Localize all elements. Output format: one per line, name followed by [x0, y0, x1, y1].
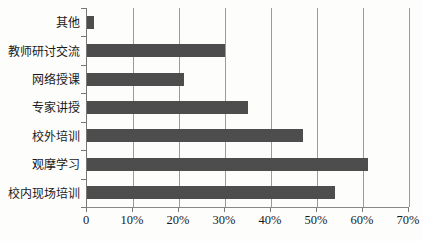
- x-tick-label: 10%: [121, 213, 144, 228]
- y-axis-tick: [81, 179, 86, 180]
- y-axis-tick: [81, 36, 86, 37]
- category-label: 教师研讨交流: [0, 36, 80, 64]
- y-axis-tick: [81, 122, 86, 123]
- x-axis-tick: [178, 208, 179, 212]
- x-axis-tick: [224, 208, 225, 212]
- bar-校内现场培训: [87, 186, 335, 199]
- x-tick-label: 30%: [213, 213, 236, 228]
- category-label: 校外培训: [0, 122, 80, 150]
- x-tick-label: 20%: [167, 213, 190, 228]
- x-axis-tick: [270, 208, 271, 212]
- bar-row: [87, 122, 409, 150]
- gridline: [409, 8, 410, 207]
- category-label: 专家讲授: [0, 93, 80, 121]
- x-tick-label: 40%: [259, 213, 282, 228]
- bar-chart: 其他教师研讨交流网络授课专家讲授校外培训观摩学习校内现场培训 010%20%30…: [0, 0, 422, 241]
- x-axis-tick: [86, 208, 87, 212]
- bar-其他: [87, 16, 94, 29]
- category-axis-labels: 其他教师研讨交流网络授课专家讲授校外培训观摩学习校内现场培训: [0, 8, 80, 207]
- x-axis-tick: [132, 208, 133, 212]
- bar-专家讲授: [87, 101, 248, 114]
- plot-area: [86, 8, 409, 208]
- category-label: 观摩学习: [0, 150, 80, 178]
- y-axis-tick: [81, 65, 86, 66]
- bar-row: [87, 150, 409, 178]
- bar-网络授课: [87, 73, 184, 86]
- x-tick-label: 70%: [397, 213, 420, 228]
- bar-row: [87, 36, 409, 64]
- bar-校外培训: [87, 129, 303, 142]
- bar-row: [87, 93, 409, 121]
- bar-row: [87, 8, 409, 36]
- category-label: 校内现场培训: [0, 179, 80, 207]
- bar-观摩学习: [87, 158, 368, 171]
- category-label: 其他: [0, 8, 80, 36]
- x-axis-tick: [362, 208, 363, 212]
- y-axis-tick: [81, 8, 86, 9]
- x-axis-tick: [316, 208, 317, 212]
- bar-教师研讨交流: [87, 44, 225, 57]
- bar-row: [87, 179, 409, 207]
- x-axis-tick: [408, 208, 409, 212]
- y-axis-tick: [81, 93, 86, 94]
- x-tick-label: 50%: [305, 213, 328, 228]
- category-label: 网络授课: [0, 65, 80, 93]
- y-axis-tick: [81, 150, 86, 151]
- x-tick-label: 0: [83, 213, 89, 228]
- bar-row: [87, 65, 409, 93]
- x-tick-label: 60%: [351, 213, 374, 228]
- x-axis-labels: 010%20%30%40%50%60%70%: [86, 213, 408, 229]
